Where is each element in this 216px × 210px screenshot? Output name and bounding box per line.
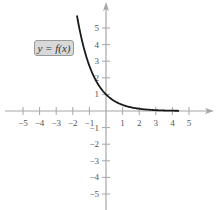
x-tick-label: −4 <box>35 118 45 128</box>
x-tick-label: 3 <box>154 118 159 128</box>
y-tick-label: 1 <box>95 89 100 99</box>
y-tick-label: −1 <box>89 123 99 133</box>
function-label: y = f(x) <box>34 40 74 56</box>
y-tick-label: 3 <box>95 56 100 66</box>
x-tick-label: 1 <box>120 118 125 128</box>
x-tick-label: −5 <box>18 118 28 128</box>
y-tick-label: −4 <box>89 172 99 182</box>
function-graph: −5−4−3−2−11234554321−1−2−3−4−5 <box>0 0 216 210</box>
x-tick-label: 4 <box>170 118 175 128</box>
y-tick-label: 4 <box>95 40 100 50</box>
y-tick-label: −3 <box>89 156 99 166</box>
x-tick-label: −2 <box>68 118 78 128</box>
axes <box>5 2 214 210</box>
x-tick-label: 2 <box>137 118 142 128</box>
y-tick-label: 5 <box>95 23 100 33</box>
y-tick-label: −2 <box>89 139 99 149</box>
function-curve <box>77 15 179 110</box>
x-tick-label: 5 <box>187 118 192 128</box>
x-tick-label: −3 <box>51 118 61 128</box>
y-tick-label: −5 <box>89 189 99 199</box>
